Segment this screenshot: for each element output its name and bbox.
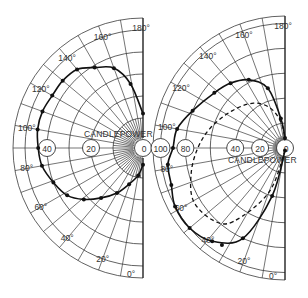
data-point (266, 86, 270, 90)
data-point (141, 112, 145, 116)
angle-tick-label: 40° (61, 233, 74, 243)
data-point (65, 193, 69, 197)
data-point (191, 109, 195, 113)
data-point (93, 66, 97, 70)
radial-tick-label: 20 (86, 144, 96, 154)
spoke-gridline (200, 47, 284, 147)
spoke-gridline (219, 34, 284, 147)
angle-tick-label: 100° (158, 122, 176, 132)
angle-tick-label: 160° (94, 32, 112, 42)
angle-tick-label: 120° (172, 83, 190, 93)
angle-tick-label: 100° (18, 123, 36, 133)
data-point (99, 196, 103, 200)
data-point (175, 127, 179, 131)
radial-tick-label: 40 (230, 144, 240, 154)
data-point (166, 162, 170, 166)
data-point (210, 239, 214, 243)
data-point (171, 146, 175, 150)
data-point (82, 197, 86, 201)
data-point (173, 204, 177, 208)
data-point (136, 173, 140, 177)
radial-axis-label: CANDLEPOWER (84, 129, 153, 139)
data-point (61, 79, 65, 83)
angle-tick-label: 20° (238, 256, 251, 266)
data-point (112, 66, 116, 70)
data-point (241, 236, 245, 240)
data-point (141, 163, 145, 167)
data-point (36, 127, 40, 131)
radial-tick-label: 100 (153, 144, 167, 154)
radial-tick-label: 20 (255, 144, 265, 154)
angle-tick-label: 180° (274, 21, 292, 31)
minor-spoke (126, 155, 138, 172)
data-point (129, 82, 133, 86)
data-point (247, 78, 251, 82)
spoke-gridline (240, 150, 284, 272)
data-point (169, 183, 173, 187)
data-point (51, 180, 55, 184)
minor-spoke (118, 153, 135, 165)
angle-tick-label: 160° (235, 30, 253, 40)
data-point (75, 67, 79, 71)
spoke-gridline (219, 150, 284, 263)
angle-tick-label: 140° (58, 53, 76, 63)
data-point (220, 243, 224, 247)
angle-tick-label: 180° (132, 23, 150, 33)
radial-tick-label: 0 (142, 144, 147, 154)
data-point (127, 182, 131, 186)
spoke-gridline (240, 24, 284, 146)
data-point (270, 194, 274, 198)
angle-tick-label: 140° (199, 51, 217, 61)
data-point (50, 94, 54, 98)
spoke-gridline (43, 154, 135, 231)
radial-axis-label: CANDLEPOWER (228, 155, 297, 165)
radial-tick-label: 40 (42, 144, 52, 154)
data-point (115, 191, 119, 195)
angle-tick-label: 60° (34, 202, 47, 212)
radial-tick-label: 80 (181, 144, 191, 154)
data-point (212, 91, 216, 95)
data-point (229, 81, 233, 85)
data-point (40, 109, 44, 113)
right-polar-chart: 0°20°40°60°80°100°120°140°160°180°020408… (151, 16, 297, 281)
data-point (188, 226, 192, 230)
angle-tick-label: 80° (20, 163, 33, 173)
spoke-gridline (262, 18, 285, 146)
left-polar-chart: 0°20°40°60°80°100°120°140°160°180°02040C… (13, 18, 153, 279)
angle-tick-label: 120° (32, 84, 50, 94)
angle-tick-label: 0° (269, 271, 277, 281)
angle-tick-label: 20° (96, 254, 109, 264)
polar-charts: 0°20°40°60°80°100°120°140°160°180°02040C… (0, 0, 308, 298)
angle-tick-label: 0° (127, 269, 135, 279)
data-point (40, 164, 44, 168)
data-point (36, 146, 40, 150)
